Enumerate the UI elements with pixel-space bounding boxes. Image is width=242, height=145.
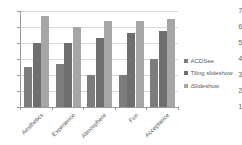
legend-label-acdsee: ACDSee [191,58,214,64]
bar-islideshow-aesthetics [41,16,49,107]
bar-tiling-aesthetics [33,43,41,107]
bar-islideshow-atmosphere [104,21,112,107]
x-tick-mark [115,107,116,110]
x-category-label-acceptance: Acceptance [135,112,170,145]
bar-group-fun [118,11,147,107]
bar-group-experience [55,11,84,107]
x-category-label-experience: Experience [40,112,75,145]
bar-acdsee-acceptance [150,59,158,107]
x-tick-mark [52,107,53,110]
y-tick-label-1: 1 [228,104,242,111]
bar-acdsee-aesthetics [24,67,32,107]
bar-islideshow-experience [73,27,81,107]
bar-tiling-fun [127,33,135,107]
y-tick-label-6: 6 [228,24,242,31]
bar-group-atmosphere [86,11,115,107]
legend-swatch-icon [184,84,188,88]
bar-group-aesthetics [23,11,52,107]
x-axis-line [20,107,178,108]
x-tick-mark [146,107,147,110]
y-axis-line [20,11,21,107]
legend-item-acdsee[interactable]: ACDSee [184,57,242,64]
legend-label-islideshow: iSlideshow [191,83,220,89]
legend-item-tiling-slideshow[interactable]: Tiling slideshow [184,70,242,77]
y-tick-label-5: 5 [228,40,242,47]
bar-acdsee-fun [119,75,127,107]
bar-acdsee-experience [56,64,64,107]
legend-label-tiling-slideshow: Tiling slideshow [191,70,233,76]
bar-tiling-experience [64,43,72,107]
legend-item-islideshow[interactable]: iSlideshow [184,82,242,89]
x-category-label-aesthetics: Aesthetics [9,112,44,145]
bar-islideshow-acceptance [167,19,175,107]
x-category-label-atmosphere: Atmosphere [72,112,107,145]
bar-acdsee-atmosphere [87,75,95,107]
bar-tiling-atmosphere [96,38,104,107]
legend-swatch-icon [184,59,188,63]
bar-chart: 7 6 5 4 3 2 1 [0,0,242,145]
x-tick-mark [20,107,21,110]
bar-islideshow-fun [136,21,144,107]
chart-legend: ACDSee Tiling slideshow iSlideshow [184,57,242,95]
x-tick-mark [83,107,84,110]
plot-area [20,11,178,107]
x-tick-mark [178,107,179,110]
legend-swatch-icon [184,71,188,75]
y-tick-label-7: 7 [228,8,242,15]
bar-group-acceptance [149,11,178,107]
bar-tiling-acceptance [159,31,167,107]
x-category-label-fun: Fun [104,112,139,145]
